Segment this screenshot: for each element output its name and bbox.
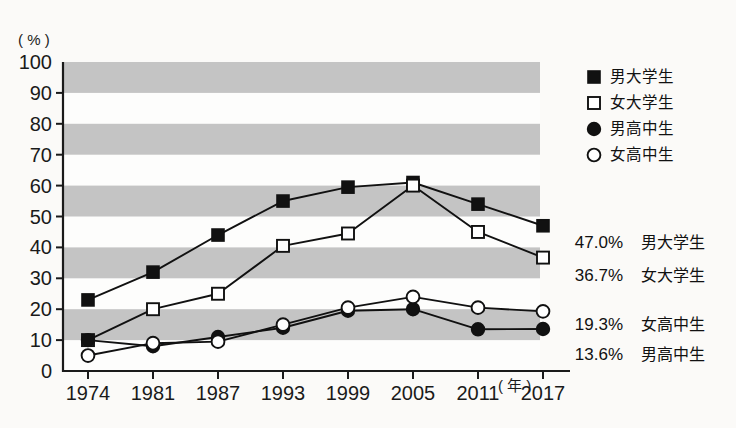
marker-filled-square — [277, 195, 289, 207]
marker-filled-square — [212, 229, 224, 241]
y-tick-label: 30 — [30, 267, 52, 289]
y-tick-label: 100 — [19, 51, 52, 73]
x-tick-label: 2005 — [391, 382, 436, 404]
annotation-label: 女高中生 — [641, 315, 705, 333]
marker-filled-square — [472, 198, 484, 210]
legend-item-label: 男高中生 — [610, 120, 674, 137]
y-axis-tick-labels: 0102030405060708090100 — [19, 51, 52, 382]
marker-open-circle — [537, 305, 550, 318]
marker-open-circle — [277, 318, 290, 331]
legend-item: 女高中生 — [588, 145, 674, 163]
y-axis-unit-label: ( % ) — [18, 31, 50, 48]
x-tick-label: 1974 — [66, 382, 111, 404]
marker-open-square — [407, 180, 419, 192]
marker-open-circle — [472, 301, 485, 314]
marker-filled-circle — [82, 334, 95, 347]
annotation-value: 19.3% — [575, 315, 623, 334]
grid-bands — [63, 62, 540, 371]
y-tick-label: 20 — [30, 298, 52, 320]
annotation: 13.6%男高中生 — [575, 345, 705, 364]
y-tick-label: 50 — [30, 206, 52, 228]
marker-open-square — [342, 227, 354, 239]
marker-open-square — [537, 252, 549, 264]
marker-open-circle — [588, 149, 601, 162]
marker-open-circle — [342, 301, 355, 314]
marker-open-circle — [82, 349, 95, 362]
marker-filled-square — [342, 181, 354, 193]
marker-filled-circle — [407, 303, 420, 316]
annotation-value: 47.0% — [575, 233, 623, 252]
marker-open-circle — [407, 290, 420, 303]
chart-svg: 0102030405060708090100 19741981198719931… — [0, 0, 736, 428]
marker-filled-square — [82, 294, 94, 306]
marker-open-circle — [212, 335, 225, 348]
x-tick-label: 1981 — [131, 382, 176, 404]
marker-open-square — [212, 288, 224, 300]
annotation-label: 女大学生 — [641, 266, 705, 284]
marker-filled-square — [588, 71, 600, 83]
marker-open-square — [147, 303, 159, 315]
marker-filled-circle — [472, 323, 485, 336]
marker-filled-circle — [588, 123, 601, 136]
x-axis-unit-label: ( 年 ) — [498, 377, 531, 394]
x-tick-label: 1987 — [196, 382, 241, 404]
legend: 男大学生女大学生男高中生女高中生 — [588, 68, 674, 163]
legend-item: 男大学生 — [588, 68, 674, 85]
annotation: 19.3%女高中生 — [575, 315, 705, 334]
y-tick-label: 70 — [30, 144, 52, 166]
y-tick-label: 90 — [30, 82, 52, 104]
annotation-value: 13.6% — [575, 345, 623, 364]
legend-item: 男高中生 — [588, 120, 674, 137]
annotation: 47.0%男大学生 — [575, 233, 705, 252]
legend-item-label: 男大学生 — [610, 68, 674, 85]
legend-item-label: 女大学生 — [610, 93, 674, 111]
x-tick-label: 1999 — [326, 382, 371, 404]
x-tick-label: 1993 — [261, 382, 306, 404]
y-tick-label: 10 — [30, 329, 52, 351]
annotation-label: 男大学生 — [641, 234, 705, 251]
y-tick-label: 40 — [30, 236, 52, 258]
marker-open-square — [472, 226, 484, 238]
marker-filled-square — [537, 220, 549, 232]
y-tick-label: 80 — [30, 113, 52, 135]
y-tick-label: 60 — [30, 175, 52, 197]
marker-filled-circle — [537, 323, 550, 336]
y-tick-label: 0 — [41, 360, 52, 382]
x-tick-label: 2011 — [456, 382, 499, 404]
annotation: 36.7%女大学生 — [575, 266, 705, 285]
annotation-label: 男高中生 — [641, 346, 705, 363]
x-axis-tick-labels: 19741981198719931999200520112017 — [66, 382, 566, 404]
marker-open-circle — [147, 337, 160, 350]
annotation-value: 36.7% — [575, 266, 623, 285]
legend-item-label: 女高中生 — [610, 145, 674, 163]
legend-item: 女大学生 — [588, 93, 674, 111]
value-annotations: 47.0%男大学生36.7%女大学生19.3%女高中生13.6%男高中生 — [575, 233, 705, 364]
marker-open-square — [588, 97, 600, 109]
line-chart: 0102030405060708090100 19741981198719931… — [0, 0, 736, 428]
marker-open-square — [277, 240, 289, 252]
marker-filled-square — [147, 266, 159, 278]
